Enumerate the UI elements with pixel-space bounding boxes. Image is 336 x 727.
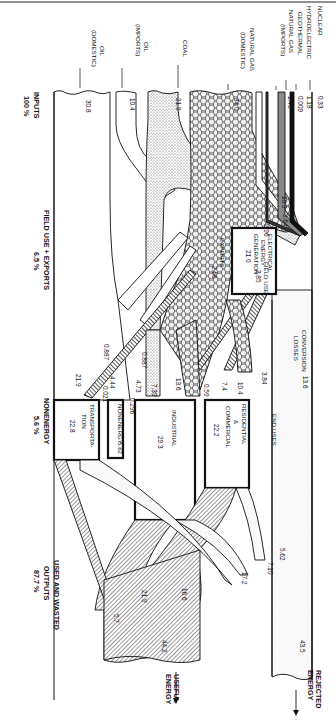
label-hydroelectric: HYDROELECTRIC	[306, 6, 313, 59]
flow-label-oil-to-res: 7.4	[221, 382, 228, 391]
flow-label-gas-to-elec: 5.64	[282, 214, 289, 227]
inputs-header-percent: 100 %	[22, 96, 31, 117]
outputs-header-sub: OUTPUTS	[42, 566, 51, 601]
electrical-line3: GENERATION	[253, 234, 260, 274]
flow-label-gas-to-nonenergy: 0.887	[103, 344, 110, 360]
transportation-line2: TION	[81, 414, 88, 429]
label-oil-domestic: OIL	[99, 46, 106, 57]
label-oil-domestic-sub: (DOMESTIC)	[91, 30, 98, 67]
flow-label-coal-to-ind: 7.39	[151, 384, 158, 397]
useful-energy-label2: ENERGY	[164, 674, 173, 705]
flow-label-coal-to-trans: 0.021	[102, 386, 109, 402]
flow-label-elec-to-ind-small: 0.59	[203, 384, 210, 397]
label-natural-gas-domestic-sub: (DOMESTIC)	[240, 32, 247, 69]
rejected-arrow-head	[293, 710, 299, 716]
flow-label-trans-waste: 17.2	[241, 572, 248, 585]
rejected-energy-label2: ENERGY	[306, 670, 315, 701]
flow-label-exports: EXPORTS	[219, 238, 226, 267]
flow-label-oil-to-elec: 2.96	[263, 224, 270, 237]
residential-line3: COMMERCIAL	[225, 406, 232, 448]
residential-value: 22.2	[213, 424, 220, 437]
flow-label-oil-to-trans: 21.9	[75, 374, 82, 387]
value-natural-gas-imports: 1.48	[287, 96, 294, 109]
flow-label-ind-useful: 21.9	[141, 590, 148, 603]
flow-label-gas-to-res: 10.4	[237, 382, 244, 395]
flow-label-exports-value: 2.66	[211, 266, 218, 279]
conversion-losses-label: CONVERSION	[301, 330, 308, 372]
value-coal: 21.9	[175, 98, 182, 111]
flow-label-ind-waste: 7.10	[267, 562, 274, 575]
nonenergy-header-label: NONENERGY	[42, 398, 51, 445]
nonenergy-node-label: NONENERGY	[117, 404, 124, 444]
electrical-value: 21.0	[245, 250, 252, 263]
label-natural-gas-domestic: NATURAL GAS	[249, 28, 256, 71]
label-coal: COAL	[182, 40, 189, 57]
flow-label-coal-to-elec: 10.9	[281, 196, 288, 209]
flow-label-field-use-value: 3.85	[255, 270, 262, 283]
nonenergy-node-value: 5.62	[117, 442, 124, 455]
end-uses-label: END USES	[271, 414, 278, 446]
label-geothermal: GEOTHERMAL	[297, 12, 304, 56]
industrial-value: 29.3	[157, 436, 164, 449]
value-oil-imports: 10.4	[129, 98, 136, 111]
transportation-line1: TRANSPORTA-	[89, 404, 96, 448]
flow-label-res-useful: 16.6	[181, 588, 188, 601]
label-natural-gas-imports-sub: (IMPORTS)	[280, 24, 287, 56]
inputs-header-label: INPUTS	[32, 92, 41, 119]
field-use-header-percent: 6.5 %	[32, 252, 41, 271]
flow-label-oil-to-ind: 4.73	[135, 380, 142, 393]
nonenergy-header-percent: 5.6 %	[32, 416, 41, 435]
industrial-label: INDUSTRIAL	[171, 410, 178, 447]
flow-label-elec-to-res: 3.84	[261, 372, 268, 385]
flow-label-gas-to-ind: 13.6	[175, 378, 182, 391]
value-oil-domestic: 30.8	[85, 100, 92, 113]
energy-flow-diagram: NUCLEAR HYDROELECTRIC GEOTHERMAL NATURAL…	[0, 0, 336, 727]
value-geothermal: 0.009	[297, 96, 304, 112]
residential-line1: RESIDENTIAL	[241, 404, 248, 445]
label-natural-gas-imports: NATURAL GAS	[288, 10, 295, 53]
value-hydroelectric: 1.18	[306, 96, 313, 109]
flow-label-field-use: FIELD USE	[263, 262, 270, 294]
value-nuclear: 0.33	[317, 96, 324, 109]
field-use-header-label: FIELD USE + EXPORTS	[42, 210, 51, 290]
flow-label-coal-to-ind-small: 0.887	[141, 352, 148, 368]
useful-total-value: 44.2	[161, 640, 168, 653]
flow-label-oil-to-nonenergy: 0.296	[129, 398, 136, 414]
label-nuclear: NUCLEAR	[317, 6, 324, 36]
outputs-header-label: USED AND WASTED	[52, 560, 61, 630]
conversion-losses-label2: LOSSES	[293, 336, 300, 361]
flow-label-gas-to-trans: 4.44	[109, 376, 116, 389]
rejected-total-value: 43.5	[299, 640, 306, 653]
source-pointers	[80, 65, 310, 90]
label-oil-imports-sub: (IMPORTS)	[135, 24, 142, 56]
transportation-value: 22.8	[69, 420, 76, 433]
outputs-header-percent: 87.7 %	[32, 570, 41, 593]
flow-nuclear	[290, 92, 308, 236]
flow-label-res-waste: 5.62	[279, 548, 286, 561]
value-natural-gas-domestic: 34.0	[233, 98, 240, 111]
conversion-losses-value: 13.6	[302, 376, 309, 389]
label-oil-imports: OIL	[143, 42, 150, 53]
flow-res-rejected	[236, 488, 265, 560]
flow-label-trans-useful: 5.7	[113, 614, 120, 623]
